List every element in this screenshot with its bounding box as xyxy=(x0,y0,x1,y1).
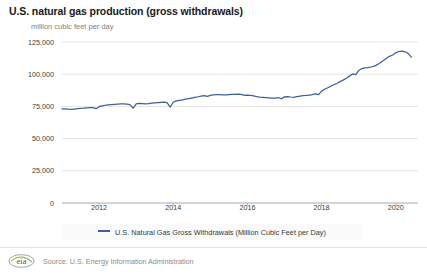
svg-text:eia: eia xyxy=(17,257,27,266)
chart-footer: eia Source: U.S. Energy Information Admi… xyxy=(8,254,194,268)
gridlines xyxy=(62,42,418,206)
x-axis-tick-label: 2020 xyxy=(376,203,416,212)
y-axis-tick-label: 100,000 xyxy=(2,70,54,79)
legend-line-swatch xyxy=(98,230,110,232)
source-text: Source: U.S. Energy Information Administ… xyxy=(43,257,194,266)
chart-legend[interactable]: U.S. Natural Gas Gross Withdrawals (Mill… xyxy=(62,224,362,240)
line-chart-svg xyxy=(0,33,427,213)
chart-title: U.S. natural gas production (gross withd… xyxy=(9,5,243,17)
y-axis-tick-label: 0 xyxy=(2,199,54,208)
x-axis-tick-label: 2012 xyxy=(79,203,119,212)
x-axis-tick-label: 2018 xyxy=(302,203,342,212)
y-axis-tick-label: 50,000 xyxy=(2,134,54,143)
plot-area xyxy=(0,33,427,213)
footer-divider xyxy=(0,247,427,248)
y-axis-tick-label: 125,000 xyxy=(2,38,54,47)
chart-subtitle: million cubic feet per day xyxy=(31,22,114,31)
y-axis-tick-label: 25,000 xyxy=(2,166,54,175)
chart-container: U.S. natural gas production (gross withd… xyxy=(0,0,427,275)
x-axis-tick-label: 2014 xyxy=(153,203,193,212)
y-axis-tick-label: 75,000 xyxy=(2,102,54,111)
eia-logo-icon: eia xyxy=(8,254,35,268)
x-axis-tick-label: 2016 xyxy=(227,203,267,212)
series-line-natural-gas-withdrawals xyxy=(62,51,411,109)
legend-label: U.S. Natural Gas Gross Withdrawals (Mill… xyxy=(115,228,326,237)
